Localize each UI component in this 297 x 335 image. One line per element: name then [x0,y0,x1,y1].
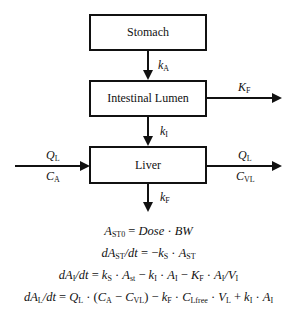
arrow-liver-out-shaft [207,165,273,167]
arrow-stomach-to-lumen-head-icon [143,70,153,80]
stomach-box: Stomach [89,14,207,51]
arrow-liver-down-shaft [147,184,149,203]
intestinal-lumen-label: Intestinal Lumen [107,91,189,106]
label-kA: kA [158,58,169,73]
equation-2: dAST/dt = −kS · AST [0,246,297,261]
arrow-liver-in-head-icon [80,161,90,171]
stomach-label: Stomach [127,25,169,40]
arrow-liver-down-head-icon [143,202,153,212]
arrow-lumen-to-liver-head-icon [143,136,153,146]
equation-4: dAL/dt = QL · (CA − CVL) − kF · CLfree ·… [0,290,297,305]
label-kF-liver: kF [160,190,170,205]
label-kI: kI [160,124,168,139]
label-CVL-out: CVL [236,169,255,184]
equation-1: AST0 = Dose · BW [0,224,297,239]
label-QL-out: QL [238,148,252,163]
liver-box: Liver [89,146,207,184]
arrow-liver-in-shaft [15,165,81,167]
arrow-lumen-to-liver-shaft [147,117,149,137]
arrow-stomach-to-lumen-shaft [147,51,149,71]
label-CA-in: CA [46,169,60,184]
arrow-lumen-out-head-icon [272,93,282,103]
arrow-lumen-out-shaft [207,97,273,99]
arrow-liver-out-head-icon [272,161,282,171]
equation-3: dAI/dt = kS · Ast − kI · AI − KF · AI/VI [0,268,297,283]
label-KF-lumen: KF [238,80,250,95]
label-QL-in: QL [46,148,60,163]
liver-label: Liver [135,158,161,173]
intestinal-lumen-box: Intestinal Lumen [89,80,207,117]
